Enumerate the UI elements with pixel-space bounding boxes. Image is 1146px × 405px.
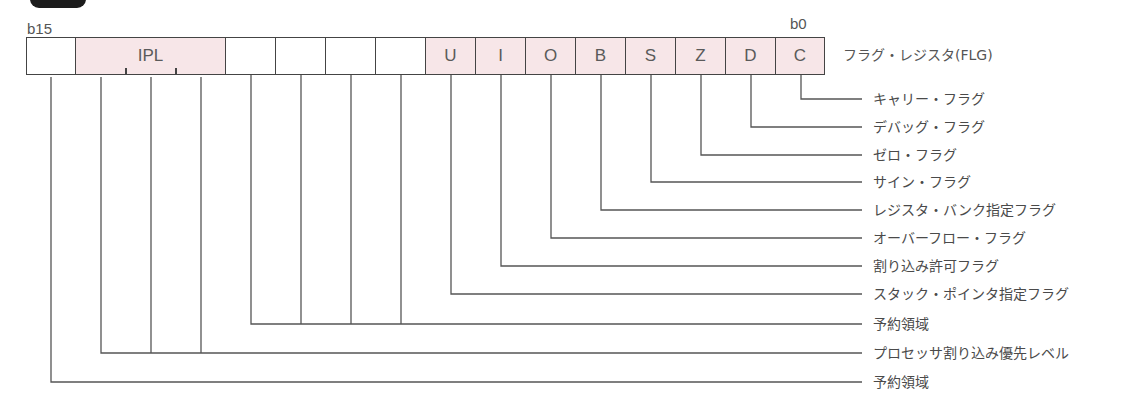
ipl-label: プロセッサ割り込み優先レベル xyxy=(873,345,1069,361)
debug-flag-label: デバッグ・フラグ xyxy=(873,119,985,135)
interrupt-enable-flag-label: 割り込み許可フラグ xyxy=(873,258,999,274)
sign-flag-label: サイン・フラグ xyxy=(873,174,971,190)
reserved-area-label: 予約領域 xyxy=(873,316,929,332)
carry-flag-label: キャリー・フラグ xyxy=(873,91,985,107)
zero-flag-label: ゼロ・フラグ xyxy=(873,147,957,163)
reserved-area-msb-label: 予約領域 xyxy=(873,374,929,390)
register-bank-flag-label: レジスタ・バンク指定フラグ xyxy=(873,202,1056,218)
stack-pointer-flag-label: スタック・ポインタ指定フラグ xyxy=(873,286,1069,302)
overflow-flag-label: オーバーフロー・フラグ xyxy=(873,230,1026,246)
